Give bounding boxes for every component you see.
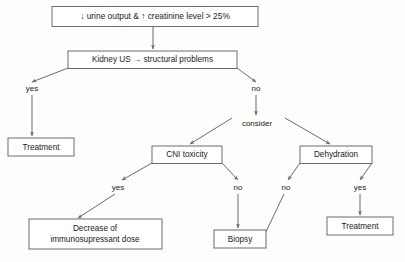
node-cni-toxicity-label: CNI toxicity xyxy=(166,150,208,159)
flowchart-page: ↓ urine output & ↑ creatinine level > 25… xyxy=(0,0,405,262)
edge-consider-to-cni-diagonal xyxy=(190,118,232,144)
node-dehydration-label: Dehydration xyxy=(314,150,359,159)
flowchart-canvas: ↓ urine output & ↑ creatinine level > 25… xyxy=(0,0,405,262)
branch-label-dehydration-yes: yes xyxy=(354,183,366,192)
edge-cni-yes-diagonal xyxy=(122,163,152,180)
branch-label-us-no: no xyxy=(252,84,261,93)
edge-dehydration-no-diagonal xyxy=(288,163,300,180)
node-decrease-dose-label-line2: immunosupressant dose xyxy=(50,235,140,244)
edge-kidney-us-yes-diagonal xyxy=(32,68,68,82)
node-consider-label: consider xyxy=(242,119,273,128)
branch-label-cni-yes: yes xyxy=(112,183,124,192)
node-treatment-left-label: Treatment xyxy=(22,143,60,152)
branch-label-us-yes: yes xyxy=(26,84,38,93)
edge-dehydration-yes-diagonal xyxy=(360,163,372,180)
node-treatment-right-label: Treatment xyxy=(341,222,379,231)
edge-cni-yes-to-decrease-dose xyxy=(78,194,115,218)
branch-label-cni-no: no xyxy=(234,183,243,192)
node-trigger-label: ↓ urine output & ↑ creatinine level > 25… xyxy=(80,11,230,21)
node-decrease-dose-label-line1: Decrease of xyxy=(73,224,118,233)
edge-consider-to-dehydration-diagonal xyxy=(285,118,330,144)
edge-kidney-us-no-diagonal xyxy=(237,68,256,82)
node-kidney-us-label: Kidney US → structural problems xyxy=(92,55,213,64)
node-biopsy-label: Biopsy xyxy=(228,235,253,244)
branch-label-dehydration-no: no xyxy=(282,183,291,192)
edge-cni-no-diagonal xyxy=(222,163,238,180)
